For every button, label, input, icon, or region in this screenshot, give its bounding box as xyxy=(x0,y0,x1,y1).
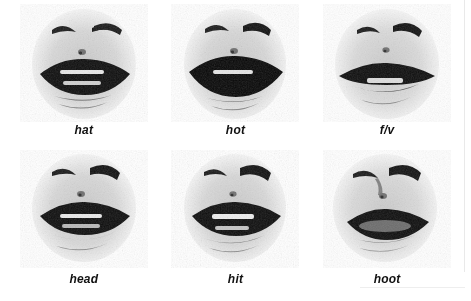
face-image-hat xyxy=(20,4,148,122)
viseme-cell-hot: hot xyxy=(160,4,312,150)
face-image-head xyxy=(20,150,148,268)
face-illustration-hot xyxy=(171,4,299,122)
viseme-caption-head: head xyxy=(69,272,98,286)
viseme-cell-hoot: hoot xyxy=(311,150,463,296)
viseme-caption-f-v: f/v xyxy=(380,123,395,137)
face-illustration-hit xyxy=(171,150,299,268)
face-illustration-hoot xyxy=(323,150,451,268)
viseme-caption-hot: hot xyxy=(226,123,245,137)
face-image-f-v xyxy=(323,4,451,122)
viseme-cell-head: head xyxy=(8,150,160,296)
face-image-hit xyxy=(171,150,299,268)
viseme-cell-f-v: f/v xyxy=(311,4,463,150)
face-illustration-hat xyxy=(20,4,148,122)
face-illustration-head xyxy=(20,150,148,268)
viseme-cell-hit: hit xyxy=(160,150,312,296)
viseme-caption-hat: hat xyxy=(75,123,94,137)
face-image-hoot xyxy=(323,150,451,268)
viseme-cell-hat: hat xyxy=(8,4,160,150)
viseme-caption-hit: hit xyxy=(228,272,243,286)
face-image-hot xyxy=(171,4,299,122)
figure-root: hat xyxy=(0,0,471,301)
viseme-grid: hat xyxy=(0,0,471,301)
viseme-caption-hoot: hoot xyxy=(374,272,401,286)
face-illustration-f-v xyxy=(323,4,451,122)
